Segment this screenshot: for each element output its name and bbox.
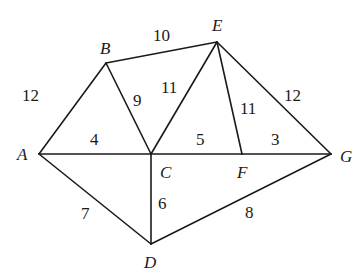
- vertex-label-d: D: [143, 253, 157, 272]
- edge-weight-labels: 12109111112453768: [22, 26, 301, 223]
- vertex-label-c: C: [160, 163, 172, 182]
- edge-weight-e-f: 11: [240, 99, 256, 118]
- weighted-graph-diagram: 12109111112453768 ABCDEFG: [0, 0, 364, 275]
- edge-weight-a-d: 7: [81, 204, 90, 223]
- vertex-label-f: F: [236, 163, 248, 182]
- vertex-label-b: B: [100, 39, 111, 58]
- edge-weight-b-e: 10: [153, 26, 170, 45]
- edge-b-e: [106, 42, 217, 63]
- edge-weight-f-g: 3: [271, 130, 280, 149]
- edge-a-d: [39, 154, 151, 244]
- edge-weight-c-e: 11: [161, 78, 177, 97]
- vertex-label-e: E: [211, 16, 223, 35]
- edge-weight-c-d: 6: [158, 194, 167, 213]
- edge-weight-d-g: 8: [245, 203, 254, 222]
- vertex-labels: ABCDEFG: [16, 16, 352, 272]
- edge-weight-a-c: 4: [90, 130, 99, 149]
- vertex-label-a: A: [16, 145, 28, 164]
- edge-weight-b-c: 9: [133, 91, 142, 110]
- edge-e-f: [217, 42, 242, 154]
- edge-weight-e-g: 12: [284, 86, 301, 105]
- vertex-label-g: G: [340, 147, 352, 166]
- edge-b-c: [106, 63, 151, 154]
- edge-weight-c-f: 5: [196, 130, 205, 149]
- edge-c-e: [151, 42, 217, 154]
- edge-weight-a-b: 12: [22, 86, 39, 105]
